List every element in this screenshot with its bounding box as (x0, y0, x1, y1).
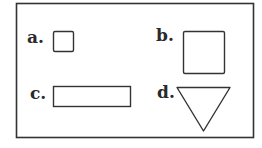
shape-b-large-square (184, 32, 225, 74)
shapes-figure: a. b. c. d. (0, 0, 262, 148)
label-b: b. (156, 27, 174, 44)
shape-c-wide-rectangle (54, 87, 131, 107)
label-c: c. (30, 85, 46, 102)
label-a: a. (27, 29, 44, 46)
shape-a-small-square (54, 32, 74, 52)
label-d: d. (157, 84, 175, 101)
shape-d-inverted-triangle (177, 88, 230, 132)
figure-svg (0, 0, 262, 148)
